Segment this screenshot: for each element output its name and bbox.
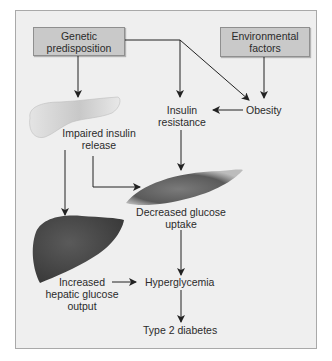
impaired-insulin-release-label: Impaired insulin release xyxy=(60,127,138,151)
impaired-release-line1: Impaired insulin xyxy=(60,127,138,139)
type-2-diabetes-label: Type 2 diabetes xyxy=(143,324,217,336)
increased-hepatic-glucose-output-label: Increased hepatic glucose output xyxy=(44,276,120,312)
obesity-label: Obesity xyxy=(246,104,282,116)
insulin-resistance-line1: Insulin xyxy=(155,104,209,116)
insulin-resistance-label: Insulin resistance xyxy=(155,104,209,128)
muscle-illustration xyxy=(126,170,243,205)
hepatic-output-line3: output xyxy=(44,300,120,312)
environmental-factors-box: Environmental factors xyxy=(220,27,310,57)
liver-illustration xyxy=(33,216,124,283)
hyperglycemia-label: Hyperglycemia xyxy=(145,276,214,288)
genetic-predisposition-box: Genetic predisposition xyxy=(33,27,125,56)
genetic-line1: Genetic xyxy=(47,30,112,42)
hepatic-output-line1: Increased xyxy=(44,276,120,288)
hepatic-output-line2: hepatic glucose xyxy=(44,288,120,300)
environmental-line2: factors xyxy=(231,42,298,54)
environmental-line1: Environmental xyxy=(231,30,298,42)
insulin-resistance-line2: resistance xyxy=(155,116,209,128)
decreased-uptake-line2: uptake xyxy=(134,218,228,230)
impaired-release-line2: release xyxy=(60,139,138,151)
arrow-release-to-muscle xyxy=(93,156,140,187)
decreased-uptake-line1: Decreased glucose xyxy=(134,206,228,218)
genetic-line2: predisposition xyxy=(47,42,112,54)
decreased-glucose-uptake-label: Decreased glucose uptake xyxy=(134,206,228,230)
arrow-genetic-to-insulin-resistance xyxy=(124,40,180,97)
